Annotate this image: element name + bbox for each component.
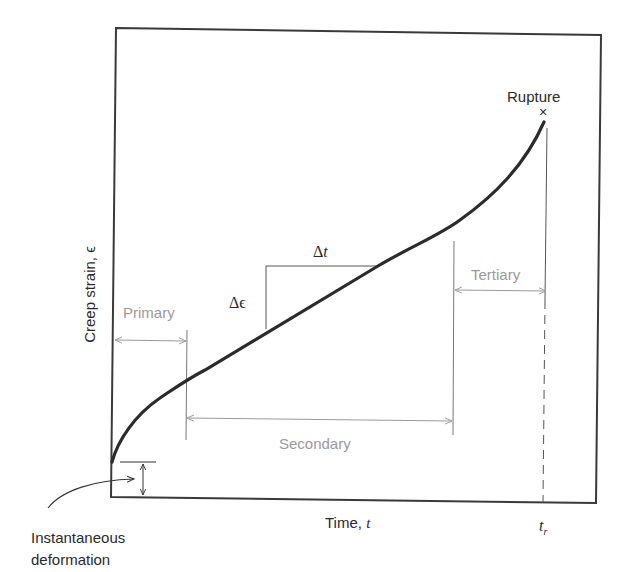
rupture-line-solid: [545, 128, 547, 300]
primary-arrow: [115, 340, 186, 341]
primary-label: Primary: [123, 305, 175, 320]
x-axis-label: Time, t: [325, 515, 370, 531]
tertiary-boundary-line: [453, 241, 454, 435]
rupture-time-label: tr: [539, 518, 547, 537]
instantaneous-pointer-arrow: [48, 479, 134, 508]
delta-epsilon-label: Δϵ: [229, 295, 246, 311]
delta-t-label: Δt: [313, 244, 328, 260]
delta-t-var: t: [323, 243, 327, 260]
instantaneous-label-line1: Instantaneous: [31, 530, 125, 545]
secondary-label: Secondary: [279, 436, 351, 451]
creep-curve: [112, 122, 544, 462]
tertiary-label: Tertiary: [471, 267, 520, 282]
y-axis-label: Creep strain, ϵ: [82, 240, 97, 350]
tertiary-arrow: [455, 290, 546, 291]
rupture-label: Rupture: [507, 89, 560, 104]
rupture-line-dashed: [543, 300, 545, 502]
secondary-arrow: [187, 418, 452, 421]
instantaneous-label-line2: deformation: [31, 552, 110, 567]
creep-curve-figure: Creep strain, ϵ Time, t Rupture × Primar…: [0, 0, 636, 572]
primary-boundary-line: [186, 330, 187, 440]
x-axis-label-text: Time,: [325, 514, 366, 531]
tr-sub: r: [543, 526, 547, 537]
x-axis-label-var: t: [366, 515, 370, 531]
rupture-marker: ×: [539, 105, 547, 119]
delta-symbol: Δ: [313, 243, 323, 260]
